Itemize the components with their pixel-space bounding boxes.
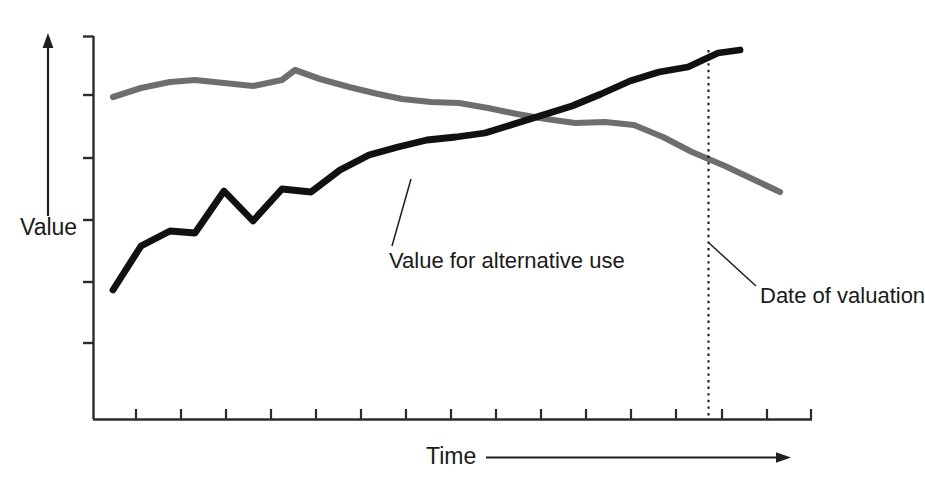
y-axis-arrow-icon — [43, 33, 54, 216]
x-axis — [93, 409, 812, 420]
y-axis — [83, 36, 94, 419]
line-chart: Value — [0, 0, 925, 483]
date-of-valuation-leader-line — [709, 243, 756, 286]
chart-canvas: Value — [0, 0, 925, 483]
alternative-use-leader-line — [392, 179, 411, 246]
x-axis-arrow-icon — [486, 452, 791, 463]
y-axis-label: Value — [20, 214, 77, 240]
series-existing-use-line — [113, 70, 780, 192]
x-axis-label: Time — [426, 443, 476, 469]
y-axis-ticks — [83, 37, 94, 344]
alternative-use-annotation-label: Value for alternative use — [389, 248, 625, 273]
date-of-valuation-annotation-label: Date of valuation — [760, 283, 925, 308]
x-axis-ticks — [136, 409, 811, 420]
